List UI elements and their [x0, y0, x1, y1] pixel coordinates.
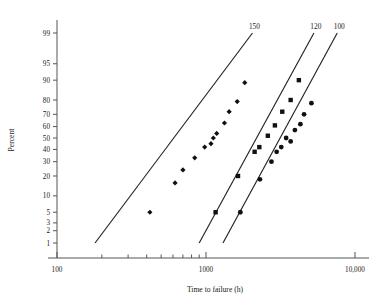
- data-point: [279, 145, 284, 150]
- x-tick-label: 100: [52, 266, 63, 274]
- y-tick-label: 60: [43, 123, 51, 131]
- y-tick-label: 30: [43, 158, 51, 166]
- y-tick-label: 20: [43, 173, 51, 181]
- data-point: [288, 139, 293, 144]
- y-tick-label: 70: [43, 111, 51, 119]
- y-tick-label: 5: [46, 209, 50, 217]
- data-point: [242, 80, 247, 85]
- y-tick-label: 80: [43, 97, 51, 105]
- series-label: 100: [334, 22, 345, 31]
- data-point: [298, 122, 303, 127]
- y-axis-title: Percent: [7, 128, 16, 152]
- fit-line: [95, 33, 252, 243]
- data-point: [222, 120, 227, 125]
- data-point: [297, 78, 301, 82]
- series-label: 120: [310, 22, 321, 31]
- data-point: [273, 123, 277, 127]
- data-point: [180, 167, 185, 172]
- x-tick-label: 10,000: [345, 266, 365, 274]
- y-tick-label: 40: [43, 146, 51, 154]
- y-tick-label: 99: [43, 30, 51, 38]
- plot-svg: 12351020304050607080909599100100010,000 …: [0, 0, 381, 298]
- data-point: [274, 149, 279, 154]
- y-tick-label: 10: [43, 192, 51, 200]
- data-point: [202, 145, 207, 150]
- data-point: [172, 180, 177, 185]
- data-point: [288, 98, 292, 102]
- data-point: [266, 134, 270, 138]
- data-point: [211, 135, 216, 140]
- data-point: [280, 109, 284, 113]
- x-axis-title: Time to failure (h): [187, 285, 244, 294]
- data-point: [309, 101, 314, 106]
- series-labels-group: 150120100: [249, 22, 345, 31]
- data-point: [292, 128, 297, 133]
- x-tick-label: 1000: [199, 266, 214, 274]
- y-tick-label: 90: [43, 77, 51, 85]
- y-tick-label: 50: [43, 135, 51, 143]
- data-point: [147, 210, 152, 215]
- data-point: [227, 109, 232, 114]
- data-point: [252, 150, 256, 154]
- data-point: [236, 174, 240, 178]
- data-point: [235, 99, 240, 104]
- data-point: [213, 210, 217, 214]
- data-point: [284, 136, 289, 141]
- probability-plot-figure: 12351020304050607080909599100100010,000 …: [0, 0, 381, 298]
- data-point: [192, 155, 197, 160]
- series-label: 150: [249, 22, 260, 31]
- y-tick-label: 3: [46, 219, 50, 227]
- data-point: [238, 210, 243, 215]
- data-points-group: [147, 78, 314, 215]
- data-point: [302, 112, 307, 117]
- data-point: [208, 141, 213, 146]
- data-point: [214, 131, 219, 136]
- y-tick-label: 2: [46, 227, 50, 235]
- data-point: [257, 145, 261, 149]
- data-point: [257, 177, 262, 182]
- y-tick-label: 95: [43, 60, 51, 68]
- y-tick-label: 1: [46, 240, 50, 248]
- data-point: [269, 159, 274, 164]
